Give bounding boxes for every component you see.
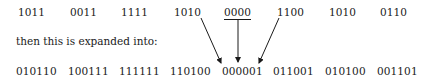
bottom-group-5-target: 000001 (222, 65, 263, 77)
top-group-4: 1010 (174, 6, 201, 18)
top-group-2: 0011 (70, 6, 97, 18)
arrow-diagonal-right-icon (201, 18, 221, 63)
bottom-group-1: 010110 (16, 65, 57, 77)
bottom-group-4: 110100 (170, 65, 211, 77)
bottom-group-6: 011001 (273, 65, 314, 77)
top-group-1: 1011 (18, 6, 45, 18)
arrow-diagonal-left-icon (259, 18, 279, 63)
bottom-group-7: 010100 (325, 65, 366, 77)
top-group-6: 1100 (277, 6, 304, 18)
bottom-group-8: 001101 (377, 65, 418, 77)
top-group-3: 1111 (121, 6, 148, 18)
top-group-7: 1010 (329, 6, 356, 18)
top-group-5-underlined: 0000 (224, 6, 251, 20)
bottom-group-3: 111111 (119, 65, 160, 77)
top-group-8: 0110 (380, 6, 407, 18)
bottom-group-2: 100111 (68, 65, 109, 77)
expansion-caption: then this is expanded into: (16, 35, 158, 47)
